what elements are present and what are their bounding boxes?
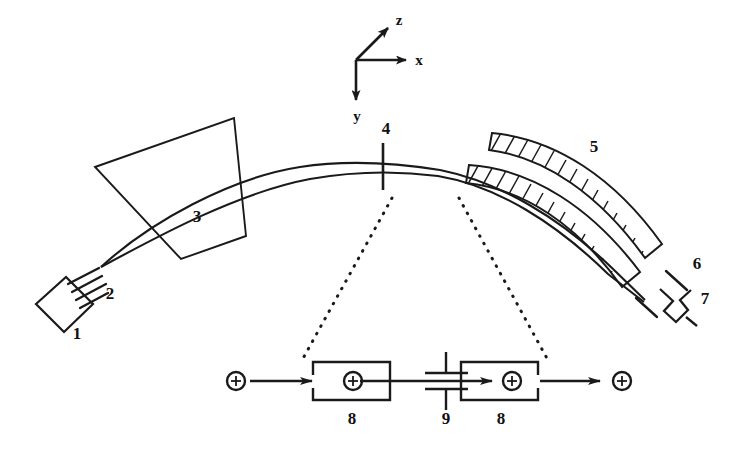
sector-band-inner-hatch (463, 157, 620, 320)
inset-ion-left (344, 372, 362, 390)
z-axis-label: z (396, 12, 403, 28)
callout-label-1: 1 (73, 324, 82, 343)
einzel-lens-body (95, 118, 246, 259)
detector-stem (686, 317, 697, 326)
leader-left (301, 198, 392, 362)
callout-label-8-left: 8 (348, 409, 357, 428)
callout-label-7: 7 (701, 289, 710, 308)
ion-beam-envelope (101, 163, 645, 302)
grid-line-1 (68, 268, 99, 284)
callout-label-4: 4 (382, 119, 391, 138)
callout-label-8-right: 8 (497, 409, 506, 428)
exit-slit-upper (666, 271, 687, 290)
callout-label-5: 5 (590, 137, 599, 156)
x-axis-label: x (415, 52, 423, 68)
inset-ion-right (503, 372, 521, 390)
detector (660, 289, 697, 326)
exit-slit (636, 271, 687, 317)
sector-band-outer-hatch (486, 124, 651, 300)
inset-detail: 8 9 8 (227, 352, 631, 428)
inset-ion-in (227, 372, 245, 390)
callout-label-2: 2 (106, 284, 115, 303)
callout-label-6: 6 (693, 254, 702, 273)
callout-label-9: 9 (442, 409, 451, 428)
einzel-lens (95, 118, 246, 259)
beam-upper-edge (101, 163, 645, 300)
schematic-svg: x y z 1 2 3 4 (0, 0, 738, 453)
magnetic-sector (463, 124, 662, 320)
beam-lower-edge (101, 172, 644, 302)
extraction-grid (68, 268, 108, 308)
y-axis-label: y (353, 108, 361, 124)
exit-slit-lower (636, 298, 657, 317)
axis-triad: x y z (353, 12, 423, 124)
z-axis-arrow (356, 28, 388, 60)
leader-right (459, 198, 549, 362)
inset-ion-out (613, 372, 631, 390)
figure-canvas: x y z 1 2 3 4 (0, 0, 738, 453)
inset-leader-lines (301, 198, 549, 362)
